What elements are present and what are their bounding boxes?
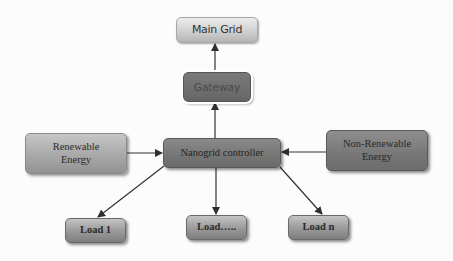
node-load-ellipsis: Load….. [186, 215, 247, 240]
node-load-1: Load 1 [65, 218, 126, 243]
node-renewable-label-line1: Renewable [53, 141, 100, 153]
node-non-renewable-energy: Non-Renewable Energy [326, 130, 428, 171]
node-nonrenewable-label-line1: Non-Renewable [343, 138, 411, 150]
node-gateway: Gateway [183, 72, 251, 102]
node-load-n-label: Load n [303, 221, 335, 233]
node-load-1-label: Load 1 [80, 224, 111, 236]
node-load-mid-label: Load….. [197, 221, 236, 233]
node-main-grid-label: Main Grid [192, 24, 242, 37]
nanogrid-diagram: Main Grid Gateway Nanogrid controller Re… [0, 0, 453, 261]
node-renewable-label-line2: Energy [53, 154, 100, 166]
node-nanogrid-controller: Nanogrid controller [163, 138, 281, 168]
node-main-grid: Main Grid [176, 17, 258, 43]
node-renewable-energy: Renewable Energy [25, 133, 127, 174]
node-controller-label: Nanogrid controller [180, 147, 263, 159]
node-load-n: Load n [288, 215, 349, 240]
node-gateway-label: Gateway [194, 81, 240, 93]
node-nonrenewable-label-line2: Energy [343, 151, 411, 163]
edge-controller-to-load-n [280, 167, 322, 214]
